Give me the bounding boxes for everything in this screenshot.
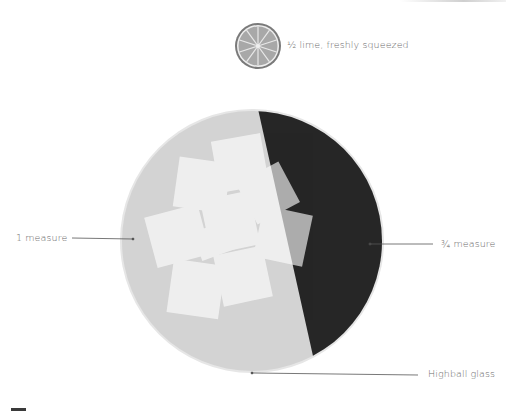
glass-label: Highball glass xyxy=(428,368,495,379)
ingredient-label-right: ¾ measure xyxy=(441,238,496,249)
garnish-label: ½ lime, freshly squeezed xyxy=(287,39,409,50)
lime-slice-icon xyxy=(235,23,281,69)
leader-dot xyxy=(251,372,253,374)
leader-dot xyxy=(132,238,134,240)
leader-dot xyxy=(369,243,371,245)
leader-line-glass xyxy=(252,373,418,375)
ice-cube xyxy=(213,245,273,306)
diagram-canvas xyxy=(0,0,512,411)
cocktail-diagram: ½ lime, freshly squeezed 1 measure ¾ mea… xyxy=(0,0,512,411)
ingredient-label-left: 1 measure xyxy=(16,232,67,243)
